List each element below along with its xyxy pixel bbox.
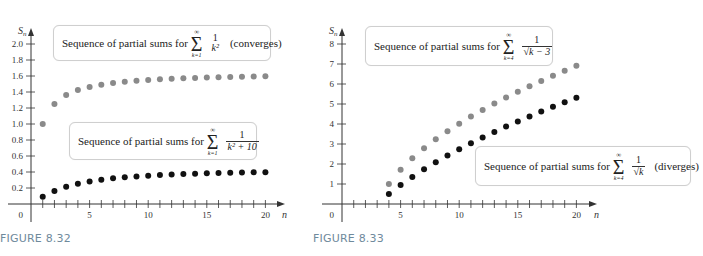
y-tick-label: 1.6 (12, 71, 24, 81)
figure-caption-8-33: FIGURE 8.33 (313, 232, 384, 245)
callout-prefix: Sequence of partial sums for (374, 40, 500, 52)
data-point (192, 171, 198, 177)
data-point (386, 191, 392, 197)
callout-prefix: Sequence of partial sums for (78, 135, 204, 147)
data-point (204, 75, 210, 81)
y-tick-label: 0.6 (12, 151, 24, 161)
data-point (480, 107, 486, 113)
x-axis-arrow-icon (589, 201, 597, 207)
data-point (75, 87, 81, 93)
origin-label: 0 (19, 210, 24, 220)
data-point (204, 170, 210, 176)
y-tick-label: 1.4 (12, 87, 24, 97)
data-point (468, 114, 474, 120)
data-point (227, 170, 233, 176)
data-point (216, 74, 222, 80)
data-point (98, 177, 104, 183)
x-tick-label: 5 (398, 210, 403, 220)
data-point (468, 140, 474, 146)
data-point (421, 166, 427, 172)
data-point (444, 128, 450, 134)
x-tick-label: 10 (455, 210, 465, 220)
y-axis-arrow-icon (28, 28, 34, 36)
data-point (145, 77, 151, 83)
data-series (40, 169, 269, 200)
x-axis-label: n (282, 209, 287, 220)
figure-caption-8-32: FIGURE 8.32 (0, 232, 71, 245)
callout-note: (converges) (230, 37, 282, 49)
data-point (527, 113, 533, 119)
data-point (251, 73, 257, 79)
sigma-symbol: ∞ Σ k=4 (503, 32, 515, 61)
x-tick-label: 15 (513, 210, 523, 220)
data-point (133, 173, 139, 179)
y-tick-label: 6 (330, 79, 335, 89)
data-point (51, 188, 57, 194)
x-axis-label: n (594, 209, 599, 220)
data-point (503, 95, 509, 101)
data-point (262, 73, 268, 79)
data-point (122, 79, 128, 85)
sigma-symbol: ∞ Σ k=4 (613, 152, 625, 181)
data-point (239, 74, 245, 80)
data-point (169, 76, 175, 82)
data-point (180, 171, 186, 177)
data-point (421, 145, 427, 151)
data-point (398, 167, 404, 173)
data-point (562, 68, 568, 74)
data-point (180, 75, 186, 81)
data-point (133, 78, 139, 84)
x-tick-label: 5 (87, 210, 92, 220)
origin-label: 0 (330, 210, 335, 220)
data-point (409, 174, 415, 180)
fraction: 1 k² (210, 33, 221, 54)
data-point (503, 124, 509, 130)
x-tick-label: 10 (144, 210, 154, 220)
y-tick-label: 7 (330, 59, 335, 69)
y-axis-arrow-icon (339, 28, 345, 36)
data-point (239, 170, 245, 176)
data-point (515, 118, 521, 124)
x-tick-label: 20 (261, 210, 271, 220)
data-point (63, 92, 69, 98)
data-point (75, 181, 81, 187)
x-tick-label: 15 (202, 210, 212, 220)
data-point (40, 121, 46, 127)
data-point (251, 169, 257, 175)
y-tick-label: 1 (330, 179, 335, 189)
y-tick-label: 1.8 (12, 55, 24, 65)
data-point (157, 76, 163, 82)
sigma-symbol: ∞ Σ k=1 (191, 29, 203, 58)
data-point (550, 73, 556, 79)
data-point (227, 74, 233, 80)
y-tick-label: 5 (330, 99, 335, 109)
data-point (573, 63, 579, 69)
data-point (433, 136, 439, 142)
data-point (456, 146, 462, 152)
callout-sqrt-k-minus-3-series: Sequence of partial sums for ∞ Σ k=4 1 √… (365, 26, 553, 66)
data-point (409, 155, 415, 161)
data-point (51, 101, 57, 107)
y-tick-label: 3 (330, 139, 335, 149)
fraction: 1 √k (632, 155, 646, 177)
data-point (157, 172, 163, 178)
callout-converges-series: Sequence of partial sums for ∞ Σ k=1 1 k… (53, 25, 271, 61)
sigma-symbol: ∞ Σ k=1 (207, 127, 219, 156)
data-point (398, 182, 404, 188)
callout-prefix: Sequence of partial sums for (484, 160, 610, 172)
data-point (480, 134, 486, 140)
fraction: 1 k² + 10 (226, 130, 259, 152)
data-point (562, 99, 568, 105)
data-point (386, 181, 392, 187)
y-tick-label: 1.2 (12, 103, 23, 113)
data-point (538, 78, 544, 84)
y-tick-label: 0.4 (12, 167, 24, 177)
data-point (456, 121, 462, 127)
data-point (433, 159, 439, 165)
data-series (40, 73, 269, 127)
callout-k2-plus-10-series: Sequence of partial sums for ∞ Σ k=1 1 k… (69, 122, 257, 160)
y-tick-label: 0.8 (12, 135, 24, 145)
data-point (216, 170, 222, 176)
data-point (145, 173, 151, 179)
y-tick-label: 4 (330, 119, 335, 129)
